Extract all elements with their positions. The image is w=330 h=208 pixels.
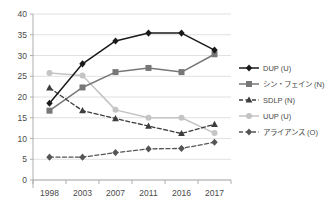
legend-item-3[interactable]: UUP (U) bbox=[238, 108, 330, 124]
data-point-marker bbox=[47, 70, 53, 76]
x-tick-label: 2017 bbox=[205, 188, 224, 198]
data-point-marker bbox=[179, 69, 185, 75]
data-point-marker bbox=[211, 139, 217, 146]
series-line bbox=[50, 73, 215, 133]
series-lines-group bbox=[46, 29, 218, 160]
legend-marker-icon bbox=[238, 78, 260, 90]
data-point-marker bbox=[80, 84, 86, 90]
data-point-marker bbox=[178, 29, 184, 36]
data-point-marker bbox=[212, 130, 218, 136]
data-point-marker bbox=[246, 113, 252, 119]
data-point-marker bbox=[246, 64, 252, 71]
legend-label: シン・フェイン (N) bbox=[263, 80, 325, 89]
legend-item-2[interactable]: SDLP (N) bbox=[238, 92, 330, 108]
y-tick-label: 35 bbox=[18, 30, 28, 40]
data-point-marker bbox=[46, 154, 52, 161]
y-tick-label: 20 bbox=[18, 92, 28, 102]
data-point-marker bbox=[112, 149, 118, 156]
data-point-marker bbox=[46, 84, 53, 90]
x-tick-labels-group: 199820032007201120162017 bbox=[40, 188, 224, 198]
y-tick-label: 0 bbox=[22, 175, 27, 185]
x-tick-label: 2011 bbox=[139, 188, 158, 198]
y-tick-label: 5 bbox=[22, 154, 27, 164]
data-point-marker bbox=[246, 128, 252, 135]
data-point-marker bbox=[47, 108, 53, 114]
y-tick-label: 30 bbox=[18, 51, 28, 61]
data-point-marker bbox=[112, 37, 118, 44]
y-tick-labels-group: 0510152025303540 bbox=[18, 9, 28, 185]
data-point-marker bbox=[178, 145, 184, 152]
legend-label: UUP (U) bbox=[263, 112, 291, 121]
data-point-marker bbox=[113, 107, 119, 113]
y-tick-label: 40 bbox=[18, 9, 28, 19]
data-point-marker bbox=[246, 81, 252, 87]
legend-label: DUP (U) bbox=[263, 64, 291, 73]
data-point-marker bbox=[79, 107, 86, 113]
data-point-marker bbox=[79, 154, 85, 161]
legend-marker-icon bbox=[238, 110, 260, 122]
data-point-marker bbox=[145, 145, 151, 152]
series-2 bbox=[46, 84, 218, 136]
data-point-marker bbox=[80, 72, 86, 78]
y-tick-label: 15 bbox=[18, 113, 28, 123]
series-1 bbox=[47, 51, 218, 113]
x-tick-label: 2003 bbox=[73, 188, 92, 198]
series-4 bbox=[46, 139, 217, 161]
legend-marker-icon bbox=[238, 126, 260, 138]
data-point-marker bbox=[145, 29, 151, 36]
x-tick-label: 1998 bbox=[40, 188, 59, 198]
data-point-marker bbox=[179, 115, 185, 121]
legend-item-1[interactable]: シン・フェイン (N) bbox=[238, 76, 330, 92]
legend-item-4[interactable]: アライアンス (O) bbox=[238, 124, 330, 140]
legend-label: SDLP (N) bbox=[263, 96, 295, 105]
legend-marker-icon bbox=[238, 62, 260, 74]
chart-legend: DUP (U)シン・フェイン (N)SDLP (N)UUP (U)アライアンス … bbox=[238, 60, 330, 140]
data-point-marker bbox=[146, 115, 152, 121]
axes-group bbox=[30, 14, 231, 188]
y-tick-label: 10 bbox=[18, 134, 28, 144]
x-tick-label: 2007 bbox=[106, 188, 125, 198]
data-point-marker bbox=[113, 69, 119, 75]
series-line bbox=[50, 88, 215, 134]
series-line bbox=[50, 142, 215, 157]
legend-item-0[interactable]: DUP (U) bbox=[238, 60, 330, 76]
data-point-marker bbox=[146, 65, 152, 71]
x-tick-label: 2016 bbox=[172, 188, 191, 198]
data-point-marker bbox=[211, 121, 218, 127]
y-tick-label: 25 bbox=[18, 71, 28, 81]
chart-container: 0510152025303540 19982003200720112016201… bbox=[0, 0, 330, 208]
legend-marker-icon bbox=[238, 94, 260, 106]
series-line bbox=[50, 54, 215, 110]
legend-label: アライアンス (O) bbox=[263, 128, 318, 137]
